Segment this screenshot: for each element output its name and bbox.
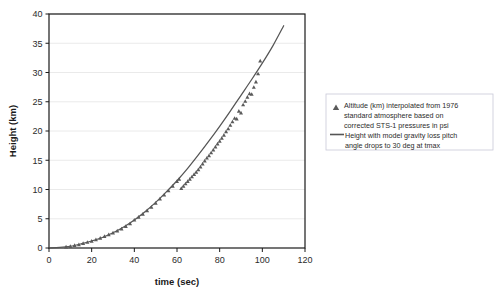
y-tick-label: 35: [32, 39, 42, 49]
y-tick-label: 20: [32, 126, 42, 136]
y-tick-label: 15: [32, 156, 42, 166]
legend-entry2-line2: angle drops to 30 deg at tmax: [345, 141, 441, 150]
chart-figure: 020406080100120 0510152025303540 time (s…: [0, 0, 497, 292]
chart-legend: Altitude (km) interpolated from 1976 sta…: [326, 94, 493, 150]
x-tick-label: 100: [255, 255, 270, 265]
y-tick-label: 10: [32, 185, 42, 195]
x-tick-label: 0: [46, 255, 51, 265]
y-tick-label: 40: [32, 9, 42, 19]
x-tick-label: 60: [172, 255, 182, 265]
y-tick-label: 25: [32, 97, 42, 107]
legend-entry1-line2: standard atmosphere based on: [344, 111, 444, 120]
legend-entry1-line3: corrected STS-1 pressures in psi: [344, 121, 449, 130]
x-tick-label: 80: [215, 255, 225, 265]
y-tick-label: 5: [37, 214, 42, 224]
legend-entry2-line1: Height with model gravity loss pitch: [345, 131, 457, 140]
x-axis-title: time (sec): [155, 276, 199, 287]
chart-svg: 020406080100120 0510152025303540 time (s…: [0, 0, 497, 292]
y-tick-label: 0: [37, 243, 42, 253]
x-tick-label: 20: [87, 255, 97, 265]
legend-entry1-line1: Altitude (km) interpolated from 1976: [344, 101, 458, 110]
x-tick-label: 120: [297, 255, 312, 265]
x-tick-label: 40: [129, 255, 139, 265]
y-tick-label: 30: [32, 68, 42, 78]
y-axis-title: Height (km): [7, 105, 18, 157]
